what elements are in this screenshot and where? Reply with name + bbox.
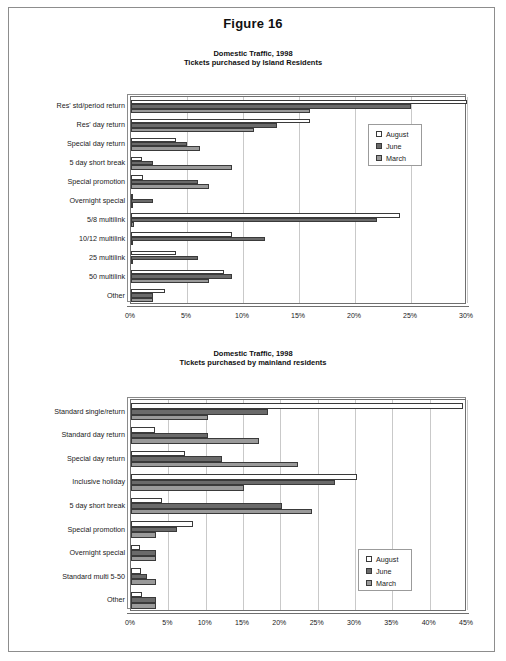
category-label: Other	[107, 595, 125, 604]
legend-swatch-icon	[366, 568, 372, 574]
subtitle-line-1: Domestic Traffic, 1998	[0, 349, 506, 358]
category-label: 5 day short break	[69, 158, 125, 167]
chart-subtitle-mainland: Domestic Traffic, 1998 Tickets purchased…	[0, 349, 506, 368]
chart-legend: AugustJuneMarch	[368, 124, 422, 166]
x-tick-label: 30%	[347, 619, 361, 626]
subtitle-line-1: Domestic Traffic, 1998	[0, 49, 506, 58]
category-label: Special day return	[67, 453, 125, 462]
bar-march	[131, 603, 156, 609]
legend-label: March	[386, 154, 406, 163]
legend-item-august[interactable]: August	[369, 128, 421, 140]
category-label: Overnight special	[69, 196, 125, 205]
bar-march	[131, 109, 310, 113]
category-label: Standard day return	[61, 430, 125, 439]
category-label: Inclusive holiday	[72, 477, 125, 486]
x-tick-label: 15%	[235, 619, 249, 626]
legend-item-march[interactable]: March	[359, 577, 411, 589]
gridline	[355, 97, 356, 303]
bar-march	[131, 415, 208, 421]
x-tick-label: 25%	[403, 312, 417, 319]
category-label: Res' day return	[76, 120, 125, 129]
x-tick-label: 15%	[291, 312, 305, 319]
gridline	[299, 97, 300, 303]
chart-island-residents: Domestic Traffic, 1998 Tickets purchased…	[0, 40, 506, 335]
bar-march	[131, 279, 209, 283]
legend-swatch-icon	[366, 556, 372, 562]
figure-title: Figure 16	[0, 16, 506, 31]
chart-legend: AugustJuneMarch	[358, 549, 412, 591]
subtitle-line-2: Tickets purchased by mainland residents	[0, 358, 506, 367]
category-label: 5/8 multilink	[87, 214, 125, 223]
chart-subtitle-island: Domestic Traffic, 1998 Tickets purchased…	[0, 49, 506, 68]
category-label: Special day return	[67, 139, 125, 148]
bar-june	[131, 199, 153, 203]
bar-june	[131, 218, 377, 222]
category-label: Special promotion	[67, 524, 125, 533]
legend-swatch-icon	[376, 131, 382, 137]
category-label: Standard multi 5-50	[62, 571, 125, 580]
bar-march	[131, 298, 153, 302]
figure-page: Figure 16 Domestic Traffic, 1998 Tickets…	[0, 0, 506, 661]
bar-march	[131, 556, 156, 562]
bar-march	[131, 165, 232, 169]
legend-item-august[interactable]: August	[359, 553, 411, 565]
x-tick-label: 20%	[272, 619, 286, 626]
legend-swatch-icon	[366, 580, 372, 586]
legend-item-march[interactable]: March	[369, 152, 421, 164]
subtitle-line-2: Tickets purchased by Island Residents	[0, 58, 506, 67]
bar-march	[131, 260, 133, 264]
bar-march	[131, 146, 200, 150]
legend-item-june[interactable]: June	[359, 565, 411, 577]
bar-march	[131, 532, 156, 538]
bar-march	[131, 438, 259, 444]
bar-march	[131, 128, 254, 132]
x-tick-label: 45%	[459, 619, 473, 626]
x-axis-line	[127, 613, 469, 614]
bar-june	[131, 256, 198, 260]
x-tick-label: 40%	[422, 619, 436, 626]
bar-march	[131, 485, 244, 491]
legend-swatch-icon	[376, 155, 382, 161]
legend-label: June	[386, 142, 402, 151]
gridline	[355, 400, 356, 610]
legend-label: August	[386, 130, 408, 139]
x-tick-label: 10%	[235, 312, 249, 319]
category-label: Other	[107, 290, 125, 299]
bar-june	[131, 237, 265, 241]
x-tick-label: 30%	[459, 312, 473, 319]
bar-march	[131, 579, 156, 585]
category-label: 5 day short break	[69, 501, 125, 510]
category-label: Special promotion	[67, 177, 125, 186]
category-label: 25 multilink	[89, 252, 125, 261]
plot-area-mainland	[130, 399, 466, 611]
x-axis-line	[127, 306, 469, 307]
chart-mainland-residents: Domestic Traffic, 1998 Tickets purchased…	[0, 345, 506, 645]
x-tick-label: 25%	[310, 619, 324, 626]
category-label: Overnight special	[69, 548, 125, 557]
category-label: Standard single/return	[54, 406, 125, 415]
legend-item-june[interactable]: June	[369, 140, 421, 152]
bar-march	[131, 203, 133, 207]
bar-march	[131, 509, 312, 515]
x-tick-label: 10%	[198, 619, 212, 626]
legend-label: August	[376, 555, 398, 564]
legend-label: March	[376, 579, 396, 588]
category-label: Res' std/period return	[57, 101, 126, 110]
x-tick-label: 20%	[347, 312, 361, 319]
x-tick-label: 35%	[384, 619, 398, 626]
gridline	[467, 400, 468, 610]
category-label: 50 multilink	[89, 271, 125, 280]
x-tick-label: 5%	[162, 619, 172, 626]
gridline	[318, 400, 319, 610]
bar-march	[131, 241, 133, 245]
legend-swatch-icon	[376, 143, 382, 149]
gridline	[467, 97, 468, 303]
bar-march	[131, 184, 209, 188]
x-tick-label: 0%	[125, 312, 135, 319]
bar-march	[131, 222, 134, 226]
legend-label: June	[376, 567, 392, 576]
bar-march	[131, 462, 298, 468]
category-label: 10/12 multilink	[79, 233, 125, 242]
x-tick-label: 0%	[125, 619, 135, 626]
x-tick-label: 5%	[181, 312, 191, 319]
